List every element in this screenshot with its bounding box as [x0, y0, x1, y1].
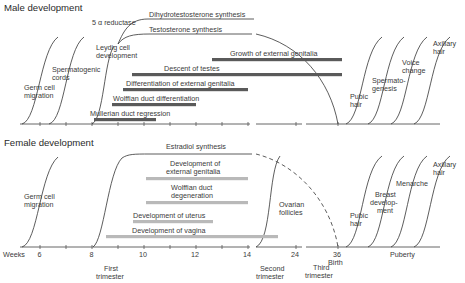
ovarian-follicles-label: Ovarianfollicles: [279, 200, 304, 217]
bar-differentiation-external-genitalia: [123, 88, 248, 91]
bar-development-of-uterus: [133, 220, 213, 223]
development-of-vagina-label: Development of vagina: [132, 226, 206, 235]
female-axis: [20, 245, 440, 249]
bar-development-of-vagina: [106, 235, 278, 238]
wolffian-duct-differentiation-label: Wolffian duct differentiation: [113, 94, 199, 103]
trimester-labels: Firsttrimester Secondtrimester Thirdtrim…: [96, 263, 334, 281]
female-section-title: Female development: [4, 137, 94, 148]
puberty-label: Puberty: [390, 250, 415, 259]
bar-growth-external-genitalia: [212, 58, 342, 61]
spermatogenic-cords-label: Spermatogeniccords: [52, 65, 101, 82]
menarche-label: Menarche: [396, 179, 428, 188]
tick-label-24: 24: [291, 250, 299, 259]
birth-label: Birth: [328, 258, 343, 267]
female-pubic-hair-label: Pubichair: [350, 211, 368, 228]
male-axillary-hair-label: Axillaryhair: [433, 39, 457, 56]
development-external-genitalia-label: Development ofexternal genitalia: [166, 159, 220, 176]
testosterone-synthesis-line: [118, 34, 252, 44]
tick-label-8: 8: [90, 250, 94, 259]
tick-label-14: 14: [243, 250, 251, 259]
bar-development-external-genitalia: [146, 177, 248, 180]
voice-change-label: Voicechange: [402, 58, 426, 75]
testosterone-synthesis-label: Testosterone synthesis: [149, 25, 223, 34]
development-of-uterus-label: Development of uterus: [133, 211, 206, 220]
bar-wolffian-duct-differentiation: [112, 103, 196, 106]
bar-wolffian-duct-degeneration: [146, 201, 248, 204]
male-axis: [20, 122, 440, 126]
testosterone-decline-curve: [256, 34, 338, 124]
5a-reductase-label: 5 α reductase: [92, 18, 136, 27]
spermatogenesis-label: Spermato-genesis: [372, 76, 406, 93]
tick-label-12: 12: [191, 250, 199, 259]
female-axillary-hair-label: Axillaryhair: [433, 160, 457, 177]
weeks-label: Weeks: [3, 250, 25, 259]
male-section-title: Male development: [4, 2, 83, 13]
dht-synthesis-label: Dihydrotestosterone synthesis: [149, 10, 246, 19]
bar-mullerian-duct-regression: [94, 118, 156, 121]
third-trimester-label: Thirdtrimester: [305, 263, 334, 280]
female-germ-cell-label: Germ cellmigration: [24, 192, 55, 209]
mullerian-duct-regression-label: Mullerian duct regression: [90, 109, 170, 118]
germ-cell-label: Germ cellmigration: [24, 83, 55, 100]
second-trimester-label: Secondtrimester: [256, 264, 285, 281]
first-trimester-label: Firsttrimester: [96, 264, 125, 281]
differentiation-external-genitalia-label: Differentiation of external genitalia: [126, 79, 235, 88]
leydig-cell-label: Leydig celldevelopment: [96, 43, 137, 60]
estradiol-synthesis-label: Estradiol synthesis: [166, 142, 226, 151]
male-pubic-hair-label: Pubichair: [350, 92, 368, 109]
week-axis-labels: Weeks 6 8 10 12 14 24 36 Birth Puberty: [3, 250, 415, 267]
tick-label-6: 6: [38, 250, 42, 259]
sexual-development-diagram: Male development Germ cellmigration Sper…: [0, 0, 465, 283]
descent-of-testes-label: Descent of testes: [164, 64, 220, 73]
wolffian-duct-degeneration-label: Wolffian ductdegeneration: [171, 183, 213, 200]
breast-development-label: Breastdevelop-ment: [370, 190, 398, 215]
bar-descent-of-testes: [132, 73, 342, 76]
tick-label-10: 10: [139, 250, 147, 259]
growth-external-genitalia-label: Growth of external genitalia: [230, 49, 318, 58]
ovarian-follicles-curve: [256, 156, 280, 247]
